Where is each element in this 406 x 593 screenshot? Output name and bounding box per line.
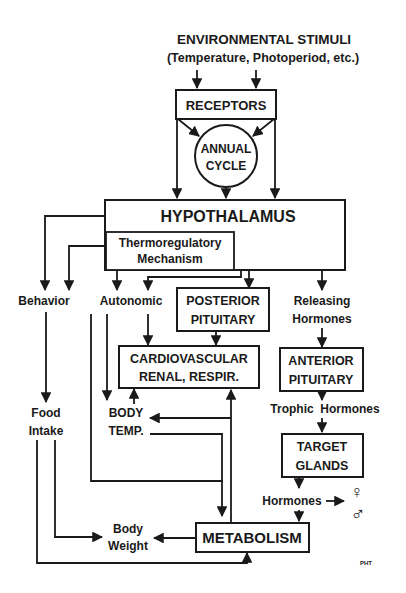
hypothalamus-label: HYPOTHALAMUS (160, 208, 295, 225)
releasing-hormones-line1: Releasing (294, 294, 351, 308)
stimuli-to-receptors-arrows (197, 70, 256, 88)
food-intake-line1: Food (31, 406, 60, 420)
releasing-hormones-line2: Hormones (292, 312, 352, 326)
signature-label: PHT (360, 560, 372, 566)
anterior-pituitary-box: ANTERIOR PITUITARY (280, 348, 363, 391)
male-symbol-icon: ♂ (351, 502, 366, 524)
hormones-label: Hormones (262, 494, 322, 508)
thermoregulatory-line2: Mechanism (137, 252, 202, 266)
target-glands-line2: GLANDS (296, 459, 349, 473)
trophic-hormones-label: Trophic Hormones (270, 402, 380, 416)
body-temp-line1: BODY (109, 406, 144, 420)
cardiovascular-line2: RENAL, RESPIR. (139, 370, 239, 384)
title-line2: (Temperature, Photoperiod, etc.) (167, 51, 359, 65)
body-temp-to-metabolism-line (150, 434, 222, 481)
annual-cycle-line1: ANNUAL (201, 142, 252, 156)
anterior-pituitary-line1: ANTERIOR (288, 354, 353, 368)
metabolism-label: METABOLISM (202, 529, 302, 546)
thermoregulatory-box: Thermoregulatory Mechanism (106, 232, 234, 270)
metabolism-to-cardiovascular-lines (150, 390, 231, 522)
food-intake-line2: Intake (29, 424, 64, 438)
posterior-pituitary-line1: POSTERIOR (186, 294, 260, 308)
posterior-pituitary-box: POSTERIOR PITUITARY (177, 288, 269, 331)
title-line1: ENVIRONMENTAL STIMULI (177, 32, 351, 47)
behavior-label: Behavior (18, 294, 70, 308)
autonomic-label: Autonomic (100, 294, 163, 308)
posterior-pituitary-line2: PITUITARY (191, 313, 256, 327)
target-glands-line1: TARGET (297, 440, 348, 454)
receptors-label: RECEPTORS (186, 98, 267, 113)
body-temp-line2: TEMP. (108, 424, 143, 438)
cardiovascular-box: CARDIOVASCULAR RENAL, RESPIR. (119, 346, 259, 388)
hypothalamus-to-behavior-arrows (45, 216, 106, 290)
female-symbol-icon: ♀ (350, 482, 364, 502)
metabolism-box: METABOLISM (196, 523, 309, 552)
body-weight-line1: Body (113, 522, 143, 536)
food-intake-to-body-weight-arrow (55, 440, 102, 537)
annual-cycle-circle: ANNUAL CYCLE (195, 125, 257, 187)
thermoregulatory-line1: Thermoregulatory (119, 236, 222, 250)
annual-cycle-line2: CYCLE (206, 159, 247, 173)
cardiovascular-line1: CARDIOVASCULAR (130, 352, 248, 366)
receptors-box: RECEPTORS (176, 90, 276, 119)
flow-diagram: ENVIRONMENTAL STIMULI (Temperature, Phot… (0, 0, 406, 593)
body-weight-line2: Weight (108, 539, 148, 553)
target-glands-box: TARGET GLANDS (282, 434, 363, 477)
anterior-pituitary-line2: PITUITARY (289, 373, 354, 387)
